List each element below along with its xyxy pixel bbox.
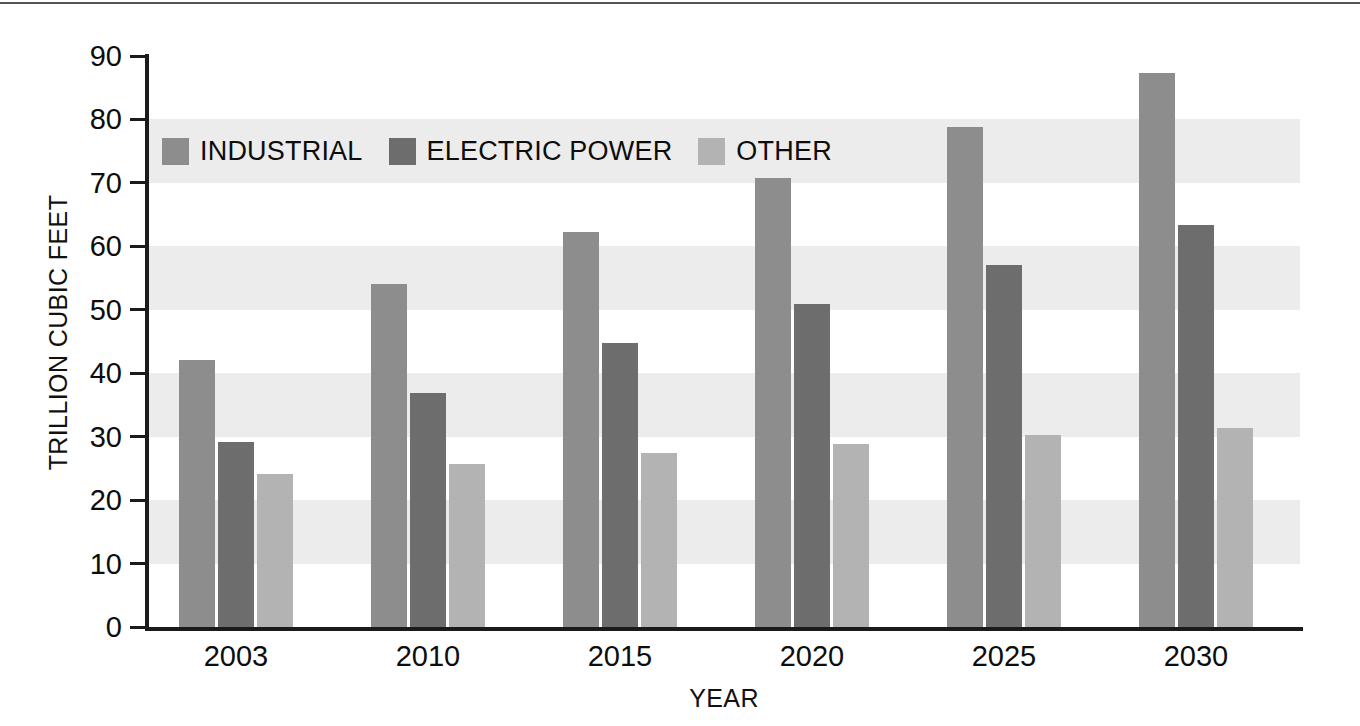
x-axis-line (145, 627, 1303, 631)
y-axis-tick-mark (130, 562, 146, 565)
legend-swatch-icon (162, 138, 189, 165)
y-axis-line (145, 54, 149, 629)
bar (947, 127, 983, 627)
bar (410, 393, 446, 627)
bar (794, 304, 830, 627)
legend-item: ELECTRIC POWER (389, 136, 673, 167)
y-axis-tick-mark (130, 181, 146, 184)
legend-item: INDUSTRIAL (162, 136, 363, 167)
legend-swatch-icon (698, 138, 725, 165)
bar (179, 360, 215, 627)
y-axis-tick-mark (130, 245, 146, 248)
y-axis-tick-label: 50 (40, 293, 122, 326)
y-axis-tick-label: 10 (40, 547, 122, 580)
chart-legend: INDUSTRIALELECTRIC POWEROTHER (162, 136, 832, 167)
legend-item: OTHER (698, 136, 832, 167)
x-axis-title: YEAR (148, 684, 1300, 713)
y-axis-tick-mark (130, 435, 146, 438)
legend-label: INDUSTRIAL (200, 136, 363, 167)
y-axis-tick-mark (130, 308, 146, 311)
bar (986, 265, 1022, 627)
bar (563, 232, 599, 627)
x-axis-tick-label: 2025 (904, 640, 1104, 673)
y-axis-tick-label: 80 (40, 103, 122, 136)
bar (1139, 73, 1175, 628)
y-axis-tick-mark (130, 499, 146, 502)
y-axis-tick-label: 20 (40, 484, 122, 517)
bar (1025, 435, 1061, 627)
scan-top-rule (0, 2, 1360, 4)
legend-label: ELECTRIC POWER (427, 136, 673, 167)
bar (218, 442, 254, 627)
bar-chart-figure: TRILLION CUBIC FEET YEAR 010203040506070… (0, 0, 1360, 726)
bar (833, 444, 869, 627)
x-axis-tick-label: 2020 (712, 640, 912, 673)
y-axis-tick-label: 90 (40, 40, 122, 73)
bar (1178, 225, 1214, 627)
y-axis-tick-mark (130, 118, 146, 121)
bar (755, 178, 791, 627)
bar (449, 464, 485, 627)
x-axis-tick-label: 2015 (520, 640, 720, 673)
y-axis-tick-label: 60 (40, 230, 122, 263)
x-axis-tick-label: 2003 (136, 640, 336, 673)
legend-swatch-icon (389, 138, 416, 165)
bar (602, 343, 638, 627)
y-axis-tick-mark (130, 55, 146, 58)
bar (257, 474, 293, 627)
y-axis-tick-label: 70 (40, 166, 122, 199)
x-axis-tick-label: 2030 (1096, 640, 1296, 673)
y-axis-tick-mark (130, 626, 146, 629)
bar (371, 284, 407, 627)
legend-label: OTHER (736, 136, 832, 167)
y-axis-tick-mark (130, 372, 146, 375)
y-axis-tick-label: 40 (40, 357, 122, 390)
bar (641, 453, 677, 627)
y-axis-tick-label: 30 (40, 420, 122, 453)
x-axis-tick-label: 2010 (328, 640, 528, 673)
bar (1217, 428, 1253, 627)
y-axis-tick-label: 0 (40, 611, 122, 644)
